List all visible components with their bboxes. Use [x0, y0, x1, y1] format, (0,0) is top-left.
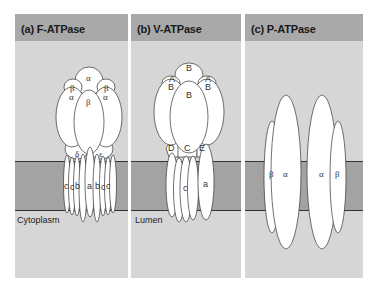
svg-text:δ: δ: [75, 149, 79, 159]
svg-text:a: a: [87, 181, 92, 191]
svg-text:B: B: [205, 82, 211, 92]
svg-text:c: c: [64, 181, 69, 191]
panel-p-atpase: (c) P-ATPase β α α β: [245, 14, 363, 278]
svg-text:B: B: [186, 90, 192, 100]
svg-text:α: α: [283, 169, 288, 179]
svg-text:α: α: [103, 92, 108, 102]
svg-text:c: c: [106, 181, 111, 191]
v-atpase-diagram: B A A B B B D C E c a: [131, 14, 241, 278]
svg-text:β: β: [335, 169, 340, 179]
panel-f-atpase: (a) F-ATPase Cytoplasm α β: [15, 14, 128, 278]
svg-text:α: α: [86, 73, 91, 83]
svg-text:B: B: [168, 82, 174, 92]
svg-text:C: C: [184, 143, 191, 153]
f-atpase-diagram: α β β α α β δ ε c c b a b c c: [15, 14, 128, 278]
panel-v-atpase: (b) V-ATPase Lumen B A A B B B D: [131, 14, 241, 278]
svg-text:B: B: [186, 63, 192, 73]
svg-text:β: β: [86, 97, 91, 107]
svg-text:D: D: [168, 143, 175, 153]
svg-text:c: c: [183, 183, 188, 193]
svg-text:E: E: [199, 143, 205, 153]
svg-text:ε: ε: [99, 149, 103, 159]
p-atpase-diagram: β α α β: [245, 14, 363, 278]
svg-text:α: α: [319, 169, 324, 179]
svg-text:b: b: [95, 181, 100, 191]
svg-text:b: b: [75, 181, 80, 191]
svg-text:a: a: [203, 179, 208, 189]
svg-text:β: β: [269, 169, 274, 179]
svg-text:α: α: [69, 92, 74, 102]
